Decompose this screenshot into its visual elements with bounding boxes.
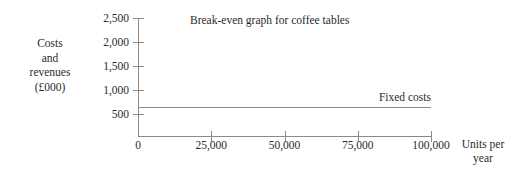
x-axis-title: Units per year [452,137,514,165]
x-axis-tick-label: 50,000 [245,139,325,152]
x-axis-tick-label: 75,000 [318,139,398,152]
y-axis-title-line-3: revenues [6,65,94,80]
y-axis-tick-mark [133,90,144,91]
y-axis-tick-label: 2,000 [85,36,129,48]
fixed-costs-line [138,107,431,108]
x-axis-title-line-2: year [452,151,514,165]
x-axis-tick-label: 25,000 [171,139,251,152]
y-axis-title: Costs and revenues (£000) [6,36,94,94]
y-axis-tick-label: 2,500 [85,12,129,24]
y-axis-tick-label: 1,000 [85,84,129,96]
y-axis-title-line-1: Costs [6,36,94,51]
x-axis-tick-label: 0 [98,139,178,152]
break-even-chart-figure: Break-even graph for coffee tables Costs… [0,0,518,172]
fixed-costs-label: Fixed costs [301,91,431,104]
y-axis-tick-mark [133,66,144,67]
x-axis-title-line-1: Units per [452,137,514,151]
y-axis-tick-mark [133,18,144,19]
y-axis-tick-label: 500 [85,108,129,120]
y-axis-line [138,18,139,136]
chart-title: Break-even graph for coffee tables [190,13,349,27]
y-axis-title-line-4: (£000) [6,80,94,95]
y-axis-tick-label: 1,500 [85,60,129,72]
y-axis-title-line-2: and [6,51,94,66]
y-axis-tick-mark [133,114,144,115]
y-axis-tick-mark [133,42,144,43]
